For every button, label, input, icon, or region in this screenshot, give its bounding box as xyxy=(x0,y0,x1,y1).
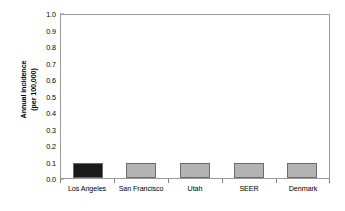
y-tick-label: 0.1 xyxy=(46,158,56,167)
bar xyxy=(73,163,103,179)
plot-area xyxy=(60,14,330,179)
x-axis-label-denmark: Denmark xyxy=(276,184,330,200)
x-axis-label-los-angeles: Los Angeles xyxy=(60,184,114,200)
bar-slot xyxy=(115,15,169,178)
bar-chart: Annual incidence (per 100,000) 1.00.90.8… xyxy=(0,0,345,211)
x-tick-mark xyxy=(276,179,277,183)
x-tick-mark xyxy=(168,179,169,183)
y-tick-label: 0.5 xyxy=(46,92,56,101)
bars-container xyxy=(61,15,329,178)
x-axis-label-seer: SEER xyxy=(222,184,276,200)
y-tick-label: 0.2 xyxy=(46,142,56,151)
bar xyxy=(234,163,264,178)
x-tick-mark xyxy=(329,179,330,183)
y-tick-label: 0.3 xyxy=(46,125,56,134)
x-tick-mark xyxy=(60,179,61,183)
bar-slot xyxy=(222,15,276,178)
bar xyxy=(180,163,210,178)
x-tick-mark xyxy=(222,179,223,183)
bar xyxy=(126,163,156,178)
y-tick-label: 0.6 xyxy=(46,76,56,85)
x-axis-labels: Los AngelesSan FranciscoUtahSEERDenmark xyxy=(60,184,330,200)
y-tick-label: 0.8 xyxy=(46,43,56,52)
y-axis-ticks: 1.00.90.80.70.60.50.40.30.20.10.0 xyxy=(36,14,60,179)
y-tick-label: 0.4 xyxy=(46,109,56,118)
y-tick-label: 0.0 xyxy=(46,175,56,184)
y-tick-label: 1.0 xyxy=(46,10,56,19)
x-tick-mark xyxy=(114,179,115,183)
bar-slot xyxy=(61,15,115,178)
y-tick-label: 0.7 xyxy=(46,59,56,68)
y-tick-label: 0.9 xyxy=(46,26,56,35)
x-axis-label-utah: Utah xyxy=(168,184,222,200)
x-axis-label-san-francisco: San Francisco xyxy=(114,184,168,200)
bar xyxy=(287,163,317,178)
bar-slot xyxy=(168,15,222,178)
x-axis-ticks xyxy=(60,179,330,183)
bar-slot xyxy=(275,15,329,178)
y-axis-title-line1: Annual incidence xyxy=(20,60,30,118)
